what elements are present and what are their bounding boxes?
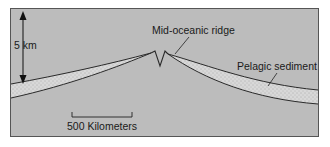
ridge-label: Mid-oceanic ridge bbox=[152, 24, 235, 36]
sediment-label: Pelagic sediment bbox=[237, 60, 317, 72]
scale-label: 500 Kilometers bbox=[67, 120, 137, 132]
ridge-diagram: 5 km Mid-oceanic ridge Pelagic sediment … bbox=[0, 0, 330, 147]
depth-label: 5 km bbox=[14, 39, 37, 51]
